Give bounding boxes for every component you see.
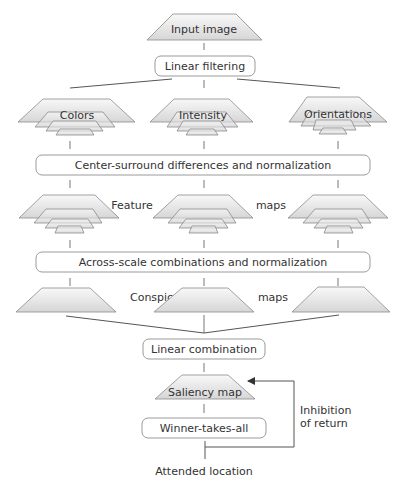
across-scale-label: Across-scale combinations and normalizat… [79,256,328,269]
feature-maps-colors [19,195,119,233]
intensity-pyramid: Intensity [150,99,253,135]
conspicuity-map-colors [16,288,116,312]
saliency-diagram: Input image Linear filtering Colors Inte… [0,0,405,489]
maps-label: maps [256,199,286,212]
feature-maps-intensity [153,195,253,233]
center-surround-label: Center-surround differences and normaliz… [75,159,332,172]
colors-pyramid: Colors [18,99,135,135]
colors-label: Colors [60,109,95,122]
feature-maps-orientations [288,195,388,233]
conspicuity-maps-label: maps [258,291,288,304]
inhibition-label-line2: of return [300,417,348,430]
linear-combination-node: Linear combination [143,339,265,359]
saliency-map-node: Saliency map [155,375,255,399]
winner-takes-all-label: Winner-takes-all [160,422,249,435]
feature-label: Feature [111,199,153,212]
orientations-label: Orientations [304,108,372,121]
center-surround-node: Center-surround differences and normaliz… [36,155,370,175]
input-image-node: Input image [147,14,262,40]
intensity-label: Intensity [179,109,227,122]
connector [70,79,172,88]
inhibition-label-line1: Inhibition [300,404,351,417]
across-scale-node: Across-scale combinations and normalizat… [36,252,370,272]
input-image-label: Input image [171,23,237,36]
orientations-pyramid: Orientations [289,97,387,134]
attended-location-label: Attended location [155,465,253,478]
conspicuity-map-orientations [292,287,390,312]
connector [237,79,340,88]
winner-takes-all-node: Winner-takes-all [142,418,266,438]
saliency-map-label: Saliency map [168,386,242,399]
linear-combination-label: Linear combination [151,343,257,356]
linear-filtering-node: Linear filtering [155,56,255,76]
connector [66,316,204,333]
linear-filtering-label: Linear filtering [165,60,245,73]
connector [204,315,339,333]
